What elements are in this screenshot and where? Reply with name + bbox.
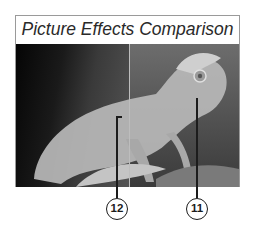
chameleon-image <box>16 44 239 187</box>
callout-12-leader-hook <box>116 116 122 118</box>
callout-11: 11 <box>186 198 208 220</box>
comparison-photo <box>16 44 239 187</box>
callout-11-leader <box>196 98 198 198</box>
split-divider <box>129 44 130 187</box>
callout-12: 12 <box>106 198 128 220</box>
figure-frame: Picture Effects Comparison <box>15 15 240 187</box>
figure-title: Picture Effects Comparison <box>16 16 239 44</box>
callout-12-leader <box>116 116 118 198</box>
